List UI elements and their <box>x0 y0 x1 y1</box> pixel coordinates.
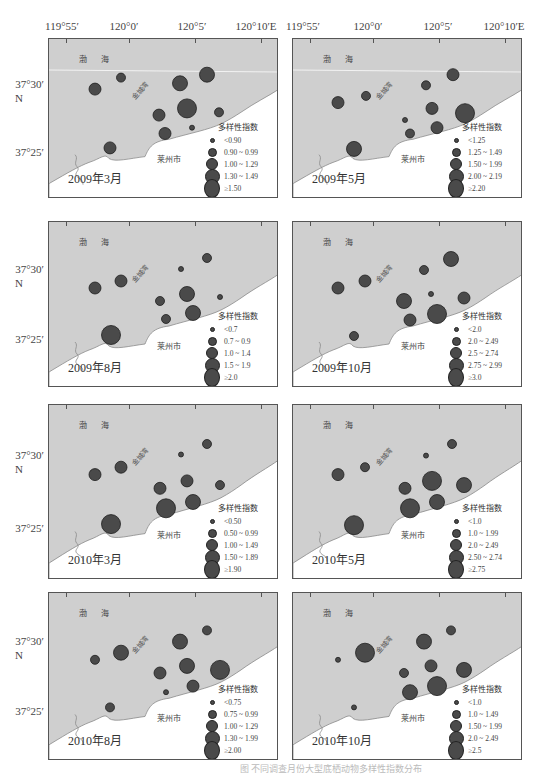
station-marker <box>401 499 420 518</box>
panel-date-title: 2010年3月 <box>68 550 122 568</box>
city-label: 莱州市 <box>401 712 425 723</box>
legend: 多样性指数<2.02.0 ~ 2.492.5 ~ 2.742.75 ~ 2.99… <box>448 310 502 383</box>
axis-tick <box>373 593 374 597</box>
legend-title: 多样性指数 <box>218 683 258 694</box>
station-marker <box>448 440 457 449</box>
lat-label-25: 37°25′ <box>4 333 44 345</box>
station-marker <box>187 680 199 692</box>
station-marker <box>186 495 201 510</box>
legend-row: 2.0 ~ 2.49 <box>448 335 502 347</box>
lat-label-n: N <box>0 92 38 104</box>
legend-label: ≥2.5 <box>468 746 482 755</box>
sea-label: 渤 海 <box>323 236 359 247</box>
legend-row: ≥3.0 <box>448 371 502 383</box>
legend-row: ≥1.90 <box>204 563 258 575</box>
sea-label: 渤 海 <box>79 236 115 247</box>
axis-tick <box>129 222 130 226</box>
axis-tick <box>195 39 196 43</box>
legend-label: 2.50 ~ 2.74 <box>468 553 502 562</box>
legend-row: <0.50 <box>204 515 258 527</box>
sea-label: 渤 海 <box>323 607 359 618</box>
legend-title: 多样性指数 <box>218 310 258 321</box>
station-marker <box>428 305 447 324</box>
legend-label: ≥1.50 <box>224 184 241 193</box>
legend-circle-icon <box>204 560 220 579</box>
map-panel: 渤 海金城湾莱州市2010年8月多样性指数<0.750.75 ~ 0.991.0… <box>48 592 278 760</box>
legend-circle-icon <box>454 519 459 524</box>
legend-circle-icon <box>204 179 220 198</box>
legend-row: 0.75 ~ 0.99 <box>204 708 258 720</box>
legend-row: <1.0 <box>448 696 502 708</box>
lon-label: 120°5′ <box>424 20 453 32</box>
legend-title: 多样性指数 <box>462 310 502 321</box>
legend-label: <0.75 <box>224 698 241 707</box>
lon-label: 119°55′ <box>286 20 320 32</box>
legend-row: <1.25 <box>448 134 502 146</box>
panel-date-title: 2009年5月 <box>312 169 366 187</box>
station-marker <box>203 626 212 635</box>
legend-circle-icon <box>208 337 217 346</box>
station-marker <box>178 99 197 118</box>
station-marker <box>89 469 101 481</box>
axis-tick <box>66 222 67 226</box>
station-marker <box>420 266 429 275</box>
legend-circle-icon <box>448 368 464 387</box>
station-marker <box>362 91 371 100</box>
legend-label: 1.0 ~ 1.49 <box>468 710 498 719</box>
station-marker <box>115 461 127 473</box>
axis-tick <box>66 593 67 597</box>
station-marker <box>179 452 184 457</box>
map-panel: 渤 海金城湾莱州市2009年3月多样性指数<0.900.90 ~ 0.991.0… <box>48 38 278 198</box>
station-marker <box>211 660 230 679</box>
legend-row: 1.25 ~ 1.49 <box>448 146 502 158</box>
city-label: 莱州市 <box>157 340 181 351</box>
axis-tick <box>439 39 440 43</box>
station-marker <box>403 685 418 700</box>
panel-date-title: 2009年3月 <box>68 169 122 187</box>
legend-label: 1.50 ~ 1.99 <box>468 160 502 169</box>
station-marker <box>215 108 224 117</box>
station-marker <box>154 667 166 679</box>
legend-label: 2.5 ~ 2.74 <box>468 349 498 358</box>
map-panel: 渤 海金城湾莱州市2010年10月多样性指数<1.01.0 ~ 1.491.50… <box>292 592 522 760</box>
map-panel: 渤 海金城湾莱州市2009年10月多样性指数<2.02.0 ~ 2.492.5 … <box>292 221 522 387</box>
legend-label: 1.00 ~ 1.29 <box>224 722 258 731</box>
legend-circle-icon <box>454 327 459 332</box>
station-marker <box>347 141 362 156</box>
lat-label-30: 37°30′ <box>4 263 44 275</box>
station-marker <box>356 643 375 662</box>
legend-row: ≥2.0 <box>204 371 258 383</box>
panel-date-title: 2009年8月 <box>68 358 122 376</box>
axis-tick <box>505 593 506 597</box>
legend-title: 多样性指数 <box>462 121 502 132</box>
legend-circle-icon <box>210 138 215 143</box>
station-marker <box>173 634 188 649</box>
station-marker <box>200 67 215 82</box>
lat-label-25: 37°25′ <box>4 705 44 717</box>
legend-circle-icon <box>210 700 215 705</box>
station-marker <box>400 669 409 678</box>
axis-tick <box>373 39 374 43</box>
map-panel: 渤 海金城湾莱州市2010年5月多样性指数<1.01.0 ~ 1.992.0 ~… <box>292 404 522 579</box>
axis-tick <box>310 405 311 409</box>
station-marker <box>102 515 121 534</box>
axis-tick <box>505 405 506 409</box>
legend-label: 0.7 ~ 0.9 <box>224 337 251 346</box>
station-marker <box>115 275 127 287</box>
legend-label: ≥3.0 <box>468 373 482 382</box>
map-panel: 渤 海金城湾莱州市2009年8月多样性指数<0.70.7 ~ 0.91.0 ~ … <box>48 221 278 387</box>
city-label: 莱州市 <box>157 712 181 723</box>
legend: 多样性指数<0.500.50 ~ 0.991.00 ~ 1.491.50 ~ 1… <box>204 502 258 575</box>
legend: 多样性指数<1.251.25 ~ 1.491.50 ~ 1.992.00 ~ 2… <box>448 121 502 194</box>
legend-row: ≥2.75 <box>448 563 502 575</box>
station-marker <box>456 104 475 123</box>
legend-label: 0.90 ~ 0.99 <box>224 148 258 157</box>
legend-title: 多样性指数 <box>462 502 502 513</box>
city-label: 莱州市 <box>157 529 181 540</box>
map-panel: 渤 海金城湾莱州市2010年3月多样性指数<0.500.50 ~ 0.991.0… <box>48 404 278 579</box>
lat-label-30: 37°30′ <box>4 78 44 90</box>
panel-date-title: 2010年5月 <box>312 550 366 568</box>
station-marker <box>336 657 341 662</box>
station-marker <box>417 634 432 649</box>
legend-label: 1.50 ~ 1.99 <box>468 722 502 731</box>
